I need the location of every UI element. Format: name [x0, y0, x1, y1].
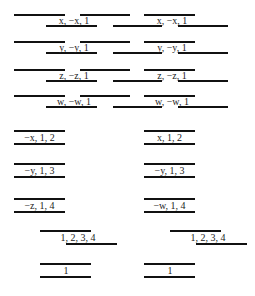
strand-label: y, −y, 1 — [157, 43, 186, 53]
upper-strand-line — [14, 14, 65, 16]
strand-label: w, −w, 1 — [155, 97, 189, 107]
block-bottom-line — [196, 243, 247, 245]
band-label: −y, 1, 3 — [155, 166, 185, 176]
strand-label: x, −x, 1 — [59, 16, 90, 26]
upper-strand-line — [14, 69, 65, 71]
strand-label: z, −z, 1 — [59, 71, 89, 81]
block-label: 1, 2, 3, 4 — [61, 233, 96, 243]
band-label: −z, 1, 4 — [24, 201, 54, 211]
strand-label: y, −y, 1 — [59, 43, 88, 53]
band-bottom-line — [144, 143, 195, 145]
band-label: −x, 1, 2 — [24, 133, 55, 143]
unit-label: 1 — [168, 266, 173, 276]
block-bottom-line — [66, 243, 117, 245]
band-label: −w, 1, 4 — [153, 201, 185, 211]
lower-strand-line — [113, 25, 162, 27]
unit-bottom-line — [144, 276, 195, 278]
band-bottom-line — [144, 176, 195, 178]
lower-strand-line — [113, 52, 162, 54]
strand-label: x, −x, 1 — [157, 16, 188, 26]
strand-label: w, −w, 1 — [57, 97, 91, 107]
band-bottom-line — [144, 211, 195, 213]
unit-bottom-line — [40, 276, 91, 278]
lower-strand-line — [113, 80, 162, 82]
band-bottom-line — [14, 176, 65, 178]
block-label: 1, 2, 3, 4 — [191, 233, 226, 243]
strand-label: z, −z, 1 — [157, 71, 187, 81]
upper-strand-line — [14, 41, 65, 43]
unit-label: 1 — [64, 266, 69, 276]
band-bottom-line — [14, 211, 65, 213]
band-bottom-line — [14, 143, 65, 145]
band-label: x, 1, 2 — [157, 133, 182, 143]
band-label: −y, 1, 3 — [25, 166, 55, 176]
